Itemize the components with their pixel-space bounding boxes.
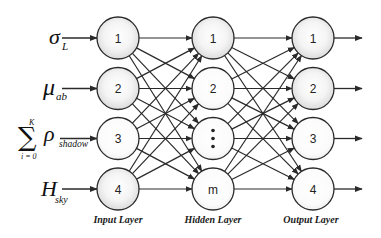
output-node-1: 1 xyxy=(292,17,334,59)
hidden-node-2: 2 xyxy=(192,68,234,110)
input-node-1: 1 xyxy=(97,17,139,59)
node-label: 1 xyxy=(115,32,122,46)
node-label: 2 xyxy=(115,82,122,96)
input-layer-label: Input Layer xyxy=(92,214,142,225)
node-label: m xyxy=(208,183,218,197)
node-label: 3 xyxy=(115,132,122,146)
connections-group xyxy=(129,38,301,189)
input-symbol-rho: ρ xyxy=(43,121,55,146)
neural-network-diagram: 123412m1234 σ L μ ab K ∑ i = 0 ρ shadow … xyxy=(0,0,381,238)
node-label: 2 xyxy=(210,82,217,96)
ellipsis-dot xyxy=(211,137,215,141)
input-arrows-group xyxy=(60,38,97,189)
input-symbol-sigma: σ xyxy=(49,24,61,49)
hidden-node-4: m xyxy=(192,168,234,210)
input-node-4: 4 xyxy=(97,168,139,210)
input-subscript-l: L xyxy=(61,40,68,52)
output-layer-label: Output Layer xyxy=(283,214,338,225)
nodes-group: 123412m1234 xyxy=(97,17,334,210)
hidden-layer-label: Hidden Layer xyxy=(184,214,242,225)
node-label: 3 xyxy=(310,132,317,146)
input-node-2: 2 xyxy=(97,68,139,110)
input-variable-rho-shadow: K ∑ i = 0 ρ shadow xyxy=(18,118,89,161)
input-subscript-shadow: shadow xyxy=(59,139,89,149)
input-subscript-ab: ab xyxy=(56,90,68,102)
summation-sign: ∑ xyxy=(18,122,37,152)
node-label: 4 xyxy=(115,183,122,197)
node-label: 2 xyxy=(310,82,317,96)
hidden-node-1: 1 xyxy=(192,17,234,59)
node-label: 1 xyxy=(310,32,317,46)
node-label: 4 xyxy=(310,183,317,197)
node-label: 1 xyxy=(210,32,217,46)
input-variable-h-sky: H sky xyxy=(40,176,68,205)
summation-lower-limit: i = 0 xyxy=(21,152,37,161)
input-subscript-sky: sky xyxy=(55,194,68,205)
output-node-2: 2 xyxy=(292,68,334,110)
ellipsis-dot xyxy=(211,129,215,133)
input-node-3: 3 xyxy=(97,118,139,160)
output-arrows-group xyxy=(334,38,362,189)
ellipsis-dot xyxy=(211,145,215,149)
hidden-node-3 xyxy=(192,118,234,160)
output-node-4: 4 xyxy=(292,168,334,210)
output-node-3: 3 xyxy=(292,118,334,160)
input-symbol-mu: μ xyxy=(42,74,55,100)
